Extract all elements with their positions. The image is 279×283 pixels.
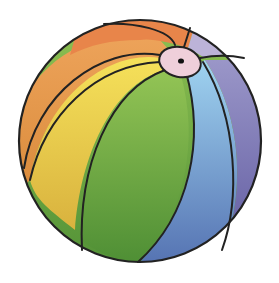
beach-ball-illustration — [0, 0, 279, 283]
ball-segments — [0, 0, 279, 283]
beach-ball-icon — [0, 0, 279, 283]
